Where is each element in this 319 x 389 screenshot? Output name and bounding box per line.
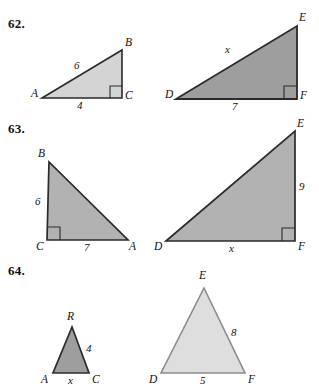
vertex-label-b: B: [125, 37, 132, 49]
textbook-page: 62. A B C 6 4 D E F x 7 63.: [0, 0, 319, 389]
vertex-label-b: B: [38, 148, 45, 160]
vertex-label-c: C: [125, 90, 133, 102]
vertex-label-a: A: [129, 241, 136, 253]
triangle-def-shape: [176, 26, 297, 99]
measure-label-ef: 8: [231, 327, 237, 338]
vertex-label-a: A: [31, 88, 38, 100]
vertex-label-c: C: [92, 374, 100, 386]
measure-label-ab: 6: [74, 60, 80, 71]
measure-label-df: x: [229, 243, 234, 254]
measure-label-df: 7: [232, 101, 238, 112]
triangle-def-shape: [166, 131, 295, 241]
vertex-label-f: F: [300, 90, 307, 102]
vertex-label-c: C: [36, 241, 44, 253]
triangle-bca-shape: [47, 162, 128, 240]
figure-64: R A C 4 x E D F 8 5: [0, 255, 319, 389]
vertex-label-f: F: [298, 241, 305, 253]
figure-62: A B C 6 4 D E F x 7: [0, 0, 319, 115]
vertex-label-d: D: [165, 89, 173, 101]
vertex-label-d: D: [154, 241, 162, 253]
vertex-label-a: A: [41, 374, 48, 386]
vertex-label-r: R: [67, 311, 74, 323]
problem-63: 63. B C A 6 7 D E F 9 x: [0, 115, 319, 255]
vertex-label-d: D: [149, 374, 157, 386]
vertex-label-f: F: [248, 374, 255, 386]
measure-label-ac: x: [68, 375, 73, 386]
vertex-label-e: E: [297, 118, 304, 130]
measure-label-bc: 6: [35, 196, 41, 207]
measure-label-de: x: [225, 44, 230, 55]
problem-62: 62. A B C 6 4 D E F x 7: [0, 0, 319, 115]
vertex-label-e: E: [299, 12, 306, 24]
measure-label-ef: 9: [299, 181, 305, 192]
problem-64: 64. R A C 4 x E D F 8 5: [0, 255, 319, 389]
measure-label-ac: 4: [77, 100, 83, 111]
triangle-arc-shape: [53, 327, 89, 373]
measure-label-rc: 4: [86, 343, 92, 354]
figure-63: B C A 6 7 D E F 9 x: [0, 115, 319, 255]
measure-label-df: 5: [200, 375, 206, 386]
measure-label-ca: 7: [84, 242, 90, 253]
vertex-label-e: E: [199, 270, 206, 282]
